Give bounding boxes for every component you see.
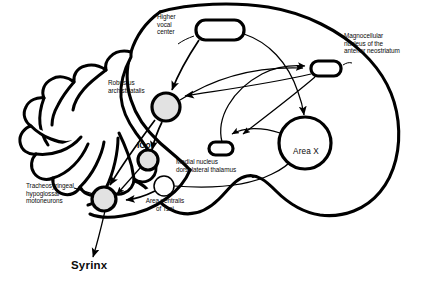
node-medial-nucleus-dlm[interactable]	[209, 142, 233, 155]
label-medial-nucleus-dlm: Medial nucleus dorsolateral thalamus	[176, 158, 256, 173]
label-area-ventralis-tsai: Area ventralis of Tsai	[141, 197, 189, 212]
node-area-x[interactable]	[279, 117, 331, 169]
node-ico[interactable]	[138, 150, 158, 170]
label-syrinx: Syrinx	[71, 262, 131, 270]
stray-dot-marker	[252, 176, 254, 178]
node-magnocellular-nucleus[interactable]	[311, 61, 341, 76]
label-higher-vocal-center: Higher vocal center	[157, 13, 197, 36]
node-robustus-archistriatalis[interactable]	[152, 93, 180, 121]
label-ico: ICo	[137, 142, 161, 150]
node-tracheosyringeal-motoneurons[interactable]	[92, 187, 116, 211]
label-robustus-archistriatalis: Robustus archistriatalis	[108, 79, 164, 94]
label-tracheosyringeal-motoneurons: Tracheosyringeal hypoglossal motoneurons	[26, 182, 86, 205]
node-higher-vocal-center[interactable]	[196, 20, 244, 40]
diagram-canvas: Higher vocal center Magnocellular nucleu…	[0, 0, 423, 290]
label-magnocellular-nucleus: Magnocellular nucleus of the anterior ne…	[344, 32, 423, 55]
label-area-x: Area X	[284, 148, 328, 156]
node-area-ventralis-tsai[interactable]	[154, 176, 174, 196]
